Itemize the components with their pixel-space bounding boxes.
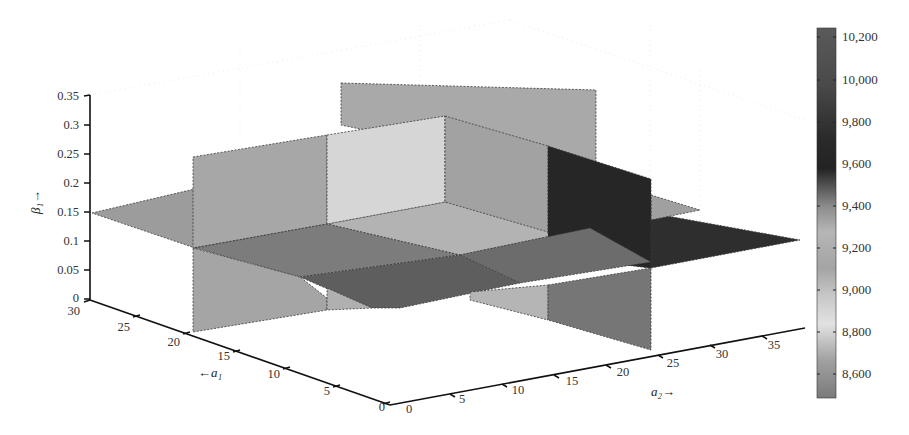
y-tick-label: 0: [379, 400, 385, 414]
colorbar-tick-label: 8,600: [842, 366, 871, 381]
z-tick-label: 0.2: [63, 176, 79, 190]
y-tick-label: 5: [324, 384, 330, 398]
x-tick-label: 25: [667, 356, 680, 370]
y-tick-label: 25: [118, 320, 131, 334]
surface-faces: [92, 83, 800, 350]
chart-3d-surface: 0.35 0.3 0.25 0.2 0.15 0.1 0.05 0 30 25 …: [0, 0, 909, 435]
z-tick-label: 0.25: [57, 147, 79, 161]
x-ticks: 0 5 10 15 20 25 30 35: [406, 336, 780, 416]
face-lower-right-wall: [548, 268, 651, 350]
z-tick-label: 0: [73, 291, 79, 305]
colorbar-tick-label: 9,200: [842, 240, 871, 255]
colorbar-gradient: [817, 28, 836, 398]
z-tick-label: 0.05: [57, 263, 79, 277]
colorbar: 10,200 10,000 9,800 9,600 9,400 9,200 9,…: [817, 28, 878, 398]
z-ticks: 0.35 0.3 0.25 0.2 0.15 0.1 0.05 0: [57, 89, 90, 305]
y-tick-label: 15: [218, 349, 231, 363]
z-tick-label: 0.15: [57, 205, 79, 219]
y-tick-label: 30: [68, 304, 81, 318]
x-axis-label: a₂→: [651, 384, 675, 399]
z-tick-label: 0.3: [63, 118, 79, 132]
colorbar-tick-label: 9,400: [842, 198, 871, 213]
face-right-light-sliver: [651, 195, 700, 220]
x-axis-line: [390, 328, 805, 405]
colorbar-tick-label: 10,000: [842, 72, 878, 87]
y-tick-label: 20: [168, 335, 181, 349]
x-tick-label: 35: [768, 338, 781, 352]
x-tick-label: 30: [716, 347, 729, 361]
colorbar-tick-label: 10,200: [842, 29, 878, 44]
x-tick-label: 10: [512, 383, 525, 397]
z-tick-label: 0.35: [57, 89, 79, 103]
x-tick-label: 20: [617, 365, 630, 379]
y-tick-label: 10: [268, 367, 281, 381]
x-tick-label: 0: [406, 402, 412, 416]
x-tick-label: 5: [459, 392, 465, 406]
y-axis-label: ←a₁: [198, 365, 222, 380]
x-tick-label: 15: [566, 374, 579, 388]
colorbar-tick-label: 9,800: [842, 114, 871, 129]
colorbar-tick-label: 9,600: [842, 156, 871, 171]
colorbar-tick-label: 8,800: [842, 324, 871, 339]
z-tick-label: 0.1: [63, 234, 79, 248]
z-axis-label: β₁→: [28, 190, 43, 215]
colorbar-tick-label: 9,000: [842, 282, 871, 297]
